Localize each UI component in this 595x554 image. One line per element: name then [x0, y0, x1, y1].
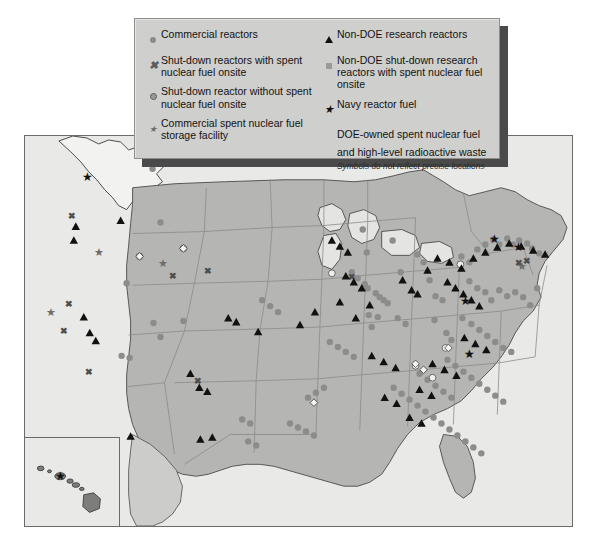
navy-fuel-icon: ★	[321, 98, 337, 117]
legend-column-left: Commercial reactors ✖ Shut-down reactors…	[135, 28, 317, 158]
map-legend: Commercial reactors ✖ Shut-down reactors…	[134, 18, 500, 159]
legend-item-doe-sites: DOE-owned spent nuclear fuel and high-le…	[321, 124, 499, 171]
map-marker	[414, 402, 420, 408]
legend-item-research-reactors: Non-DOE research reactors	[321, 28, 499, 47]
map-marker	[429, 374, 436, 381]
map-marker	[389, 237, 395, 243]
map-marker: ✖	[65, 299, 73, 309]
map-marker	[239, 416, 245, 422]
map-marker: ★	[464, 347, 475, 361]
map-marker	[420, 259, 426, 265]
map-marker	[444, 357, 450, 363]
map-marker	[303, 428, 309, 434]
map-marker	[414, 251, 420, 257]
map-marker: ★	[94, 246, 104, 258]
map-marker: ★	[513, 240, 524, 254]
map-marker	[468, 321, 474, 327]
legend-label: Commercial spent nuclear fuel storage fa…	[161, 117, 317, 141]
map-marker	[295, 424, 301, 430]
map-marker: ★	[46, 306, 56, 318]
shutdown-with-fuel-icon: ✖	[145, 54, 161, 73]
map-marker: ★	[517, 260, 527, 272]
map-marker	[460, 369, 466, 375]
map-marker	[466, 278, 472, 284]
map-marker	[534, 285, 540, 291]
map-marker	[366, 312, 372, 318]
map-marker	[504, 293, 510, 299]
map-marker	[321, 385, 327, 391]
map-marker	[311, 432, 317, 438]
map-marker	[440, 389, 446, 395]
map-marker	[454, 432, 460, 438]
map-marker: ★	[489, 232, 500, 246]
legend-label: DOE-owned spent nuclear fuel and high-le…	[337, 128, 486, 158]
map-marker	[448, 394, 454, 400]
legend-label: Non-DOE research reactors	[337, 28, 467, 40]
map-marker	[384, 300, 390, 306]
map-marker	[459, 315, 465, 321]
map-marker	[431, 317, 437, 323]
map-marker: ✖	[194, 376, 202, 386]
map-marker	[351, 354, 357, 360]
map-marker	[448, 337, 454, 343]
legend-item-commercial-reactors: Commercial reactors	[145, 28, 317, 47]
map-marker	[524, 240, 530, 246]
map-marker	[512, 289, 518, 295]
map-marker	[443, 330, 449, 336]
map-marker	[474, 246, 480, 252]
map-marker	[470, 444, 476, 450]
map-marker	[157, 334, 163, 340]
map-marker	[390, 385, 396, 391]
shutdown-without-fuel-icon	[145, 85, 161, 104]
map-marker	[343, 349, 349, 355]
map-marker	[462, 438, 468, 444]
map-marker	[259, 297, 265, 303]
map-marker	[394, 315, 400, 321]
doe-site-icon	[321, 124, 337, 143]
map-marker	[482, 241, 488, 247]
legend-item-shutdown-research: Non-DOE shut-down research reactors with…	[321, 54, 499, 91]
map-marker	[398, 390, 404, 396]
map-marker	[335, 344, 341, 350]
map-marker	[360, 226, 366, 232]
map-marker	[476, 381, 482, 387]
map-marker	[150, 320, 156, 326]
map-marker	[397, 269, 403, 275]
map-marker	[500, 345, 506, 351]
legend-column-right: Non-DOE research reactors Non-DOE shut-d…	[317, 28, 499, 158]
map-marker	[432, 383, 438, 389]
map-marker	[452, 363, 458, 369]
map-marker	[430, 414, 436, 420]
map-marker	[508, 349, 514, 355]
map-marker	[123, 280, 129, 286]
map-marker	[157, 219, 163, 225]
map-marker	[126, 355, 132, 361]
map-marker	[364, 249, 370, 255]
legend-doe-block: DOE-owned spent nuclear fuel and high-le…	[337, 124, 499, 171]
map-marker	[118, 353, 124, 359]
legend-label: Navy reactor fuel	[337, 98, 416, 110]
map-marker	[422, 408, 428, 414]
map-marker	[438, 420, 444, 426]
map-marker: ★	[55, 469, 66, 482]
map-marker	[446, 426, 452, 432]
map-marker: ★	[158, 257, 168, 269]
map-marker	[439, 297, 445, 303]
map-marker	[488, 297, 494, 303]
legend-note: Symbols do not reflect precise locations	[337, 161, 499, 171]
map-marker	[468, 375, 474, 381]
map-marker: ★	[82, 170, 93, 184]
map-marker: ✖	[68, 211, 76, 221]
map-marker	[476, 327, 482, 333]
map-marker	[245, 438, 251, 444]
map-marker	[492, 392, 498, 398]
commercial-reactor-icon	[145, 28, 161, 47]
legend-label: Commercial reactors	[161, 28, 258, 40]
map-marker	[180, 318, 186, 324]
map-marker	[496, 287, 502, 293]
map-marker: ✖	[204, 266, 212, 276]
legend-label: Non-DOE shut-down research reactors with…	[337, 54, 499, 91]
map-marker	[267, 303, 273, 309]
map-marker	[432, 293, 438, 299]
legend-item-shutdown-with-fuel: ✖ Shut-down reactors with spent nuclear …	[145, 54, 317, 78]
